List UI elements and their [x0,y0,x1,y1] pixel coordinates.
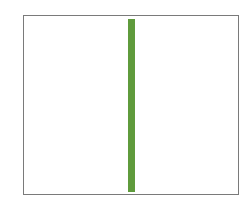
figure-canvas [0,0,251,216]
vertical-green-bar [128,19,135,192]
